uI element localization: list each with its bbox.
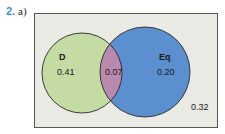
outside-value: 0.32 [191,102,209,112]
set-eq-label: Eq [159,52,171,62]
set-d-label: D [59,52,66,62]
venn-diagram: D 0.41 0.07 Eq 0.20 0.32 [0,0,225,134]
intersection-value: 0.07 [105,67,123,77]
set-eq-value: 0.20 [157,67,175,77]
set-d-value: 0.41 [57,67,75,77]
